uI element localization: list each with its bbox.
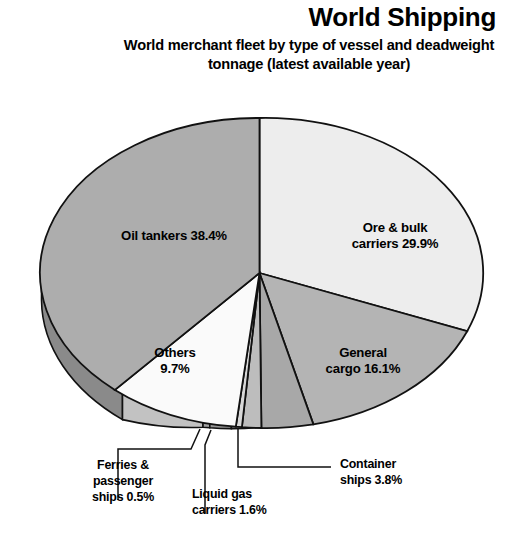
chart-page: World Shipping World merchant fleet by t… <box>0 0 508 549</box>
pie-top-face <box>40 118 483 428</box>
callout-label-liquid-gas-carriers: Liquid gas carriers 1.6% <box>192 486 302 518</box>
leader-line-container <box>238 428 331 467</box>
slice-label-general-cargo: General cargo 16.1% <box>302 345 424 377</box>
slice-label-others: Others 9.7% <box>132 345 218 377</box>
slice-label-oil-tankers: Oil tankers 38.4% <box>84 228 264 244</box>
callout-label-container-ships: Container ships 3.8% <box>340 456 456 488</box>
slice-label-ore-bulk-carriers: Ore & bulk carriers 29.9% <box>327 220 463 252</box>
callout-label-ferries-passenger-ships: Ferries & passenger ships 0.5% <box>75 457 171 505</box>
